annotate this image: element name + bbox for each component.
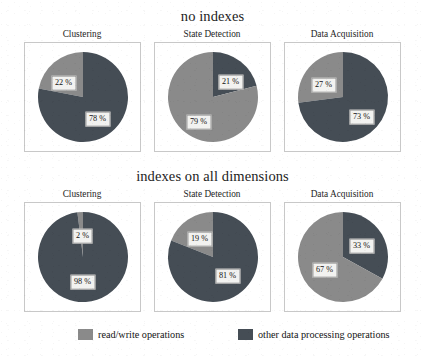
pie-slice-label: 27 % bbox=[311, 78, 336, 93]
pie-slice-label: 33 % bbox=[349, 239, 374, 254]
group-title-no-indexes: no indexes bbox=[0, 8, 425, 25]
pie-slice-label: 98 % bbox=[70, 275, 95, 290]
pie-chart-figure: no indexes Clustering State Detection Da… bbox=[0, 0, 425, 356]
pie-slice-label: 2 % bbox=[72, 229, 93, 244]
panel-title-r1c2: Data Acquisition bbox=[277, 189, 407, 199]
group-title-indexes-all-dimensions: indexes on all dimensions bbox=[0, 168, 425, 185]
pie-panel-r0c1: 21 %79 % bbox=[154, 42, 271, 152]
pie-slice-label: 73 % bbox=[349, 110, 374, 125]
legend-entry-other-processing: other data processing operations bbox=[238, 326, 390, 342]
panel-title-r0c1: State Detection bbox=[147, 29, 277, 39]
panel-title-r0c2: Data Acquisition bbox=[277, 29, 407, 39]
panel-title-r1c0: Clustering bbox=[17, 189, 147, 199]
pie-chart-clustering-no-indexes: 22 %78 % bbox=[25, 43, 140, 151]
pie-svg bbox=[30, 44, 136, 150]
pie-svg bbox=[160, 204, 266, 310]
legend-swatch-read-write bbox=[78, 329, 93, 340]
legend-entry-read-write: read/write operations bbox=[78, 326, 184, 342]
pie-panel-r0c2: 27 %73 % bbox=[284, 42, 401, 152]
pie-chart-state-detection-no-indexes: 21 %79 % bbox=[155, 43, 270, 151]
pie-slice-label: 19 % bbox=[187, 232, 212, 247]
pie-svg bbox=[290, 204, 396, 310]
pie-slice-label: 78 % bbox=[85, 112, 110, 127]
pie-slice-label: 22 % bbox=[51, 76, 76, 91]
pie-slice-label: 21 % bbox=[218, 75, 243, 90]
panel-title-r1c1: State Detection bbox=[147, 189, 277, 199]
pie-panel-r1c1: 19 %81 % bbox=[154, 202, 271, 312]
pie-chart-state-detection-indexed: 19 %81 % bbox=[155, 203, 270, 311]
pie-chart-data-acquisition-indexed: 33 %67 % bbox=[285, 203, 400, 311]
pie-svg bbox=[30, 204, 136, 310]
pie-chart-clustering-indexed: 2 %98 % bbox=[25, 203, 140, 311]
legend-label-read-write: read/write operations bbox=[98, 329, 184, 340]
legend-label-other-processing: other data processing operations bbox=[258, 329, 390, 340]
pie-panel-r1c0: 2 %98 % bbox=[24, 202, 141, 312]
pie-slice-label: 79 % bbox=[186, 115, 211, 130]
pie-panel-r0c0: 22 %78 % bbox=[24, 42, 141, 152]
chart-legend: read/write operations other data process… bbox=[0, 326, 425, 346]
panel-title-r0c0: Clustering bbox=[17, 29, 147, 39]
legend-swatch-other-processing bbox=[238, 329, 253, 340]
pie-svg bbox=[290, 44, 396, 150]
pie-slice-label: 67 % bbox=[312, 263, 337, 278]
pie-svg bbox=[160, 44, 266, 150]
pie-slice-label: 81 % bbox=[215, 269, 240, 284]
pie-panel-r1c2: 33 %67 % bbox=[284, 202, 401, 312]
pie-chart-data-acquisition-no-indexes: 27 %73 % bbox=[285, 43, 400, 151]
